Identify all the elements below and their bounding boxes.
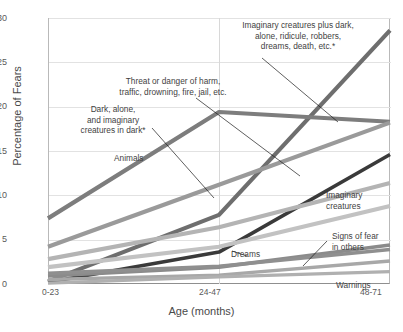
ann-line: Signs of fear bbox=[332, 231, 403, 242]
annotation-imaginary-creatures: Imaginary creatures bbox=[326, 190, 396, 211]
y-axis-title: Percentage of Fears bbox=[11, 36, 23, 196]
ann-line: creatures in dark* bbox=[58, 125, 168, 136]
annotation-warnings: Warnings bbox=[336, 280, 371, 291]
annotation-dark-alone: Dark, alone, and imaginary creatures in … bbox=[58, 104, 168, 136]
xtick-0-23: 0-23 bbox=[42, 288, 59, 297]
ytick-5: 5 bbox=[0, 235, 7, 244]
ytick-15: 15 bbox=[0, 147, 7, 156]
ytick-30: 30 bbox=[0, 14, 7, 23]
ann-line: and imaginary bbox=[58, 115, 168, 126]
ytick-25: 25 bbox=[0, 58, 7, 67]
x-axis-title: Age (months) bbox=[0, 305, 403, 317]
ytick-20: 20 bbox=[0, 102, 7, 111]
annotation-threat-of-harm: Threat or danger of harm, traffic, drown… bbox=[78, 76, 268, 97]
annotation-animals: Animals bbox=[114, 153, 144, 164]
ann-line: in others bbox=[332, 242, 403, 253]
ann-line: alone, ridicule, robbers, bbox=[218, 31, 378, 42]
ann-line: dreams, death, etc.* bbox=[218, 41, 378, 52]
ann-line: Dark, alone, bbox=[58, 104, 168, 115]
ann-line: Imaginary bbox=[326, 190, 396, 201]
ytick-0: 0 bbox=[0, 280, 7, 289]
ann-line: traffic, drowning, fire, jail, etc. bbox=[78, 87, 268, 98]
annotation-imaginary-plus-dark: Imaginary creatures plus dark, alone, ri… bbox=[218, 20, 378, 52]
annotation-signs-of-fear: Signs of fear in others bbox=[332, 231, 403, 252]
ann-line: Imaginary creatures plus dark, bbox=[218, 20, 378, 31]
xtick-24-47: 24-47 bbox=[199, 288, 221, 297]
ann-line: Threat or danger of harm, bbox=[78, 76, 268, 87]
ytick-10: 10 bbox=[0, 191, 7, 200]
ann-line: creatures bbox=[326, 201, 396, 212]
fears-by-age-line-chart: 30 25 20 15 10 5 0 0-23 24-47 48-71 Age … bbox=[0, 0, 403, 332]
annotation-dreams: Dreams bbox=[231, 249, 260, 260]
